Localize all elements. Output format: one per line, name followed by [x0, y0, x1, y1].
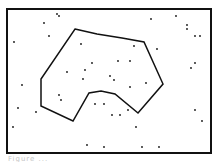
scatter-dot — [35, 111, 37, 113]
scatter-dot — [103, 103, 105, 105]
scatter-dot — [111, 114, 113, 116]
scatter-dot — [17, 107, 19, 109]
polygon-outline — [41, 29, 163, 121]
scatter-dot — [48, 35, 50, 37]
scatter-dot — [190, 67, 192, 69]
scatter-dot — [80, 43, 82, 45]
scatter-dot — [84, 69, 86, 71]
scatter-dot — [135, 126, 137, 128]
scatter-dot — [103, 146, 105, 148]
scatter-dot — [194, 109, 196, 111]
scatter-dot — [13, 41, 15, 43]
scatter-dot — [91, 62, 93, 64]
scatter-dot — [186, 24, 188, 26]
scatter-dot — [119, 114, 121, 116]
scatter-dot — [199, 35, 201, 37]
scatter-dot — [129, 86, 131, 88]
scatter-dot — [145, 82, 147, 84]
scatter-dot — [66, 71, 68, 73]
scatter-dot — [194, 35, 196, 37]
scatter-dot — [109, 75, 111, 77]
scatter-dot — [86, 144, 88, 146]
scatter-dot — [43, 22, 45, 24]
scatter-dot — [94, 103, 96, 105]
scatter-dot — [175, 15, 177, 17]
scatter-dot — [129, 60, 131, 62]
scatter-dot — [58, 94, 60, 96]
scatter-dot — [127, 109, 129, 111]
scatter-dot — [58, 15, 60, 17]
scatter-dot — [82, 78, 84, 80]
figure-caption: Figure ... — [8, 155, 48, 162]
scatter-dot — [133, 45, 135, 47]
scatter-dot — [158, 146, 160, 148]
polygon-points-diagram — [0, 0, 216, 162]
figure-frame — [7, 9, 211, 153]
scatter-dot — [194, 62, 196, 64]
scatter-dot — [56, 13, 58, 15]
scatter-dot — [21, 84, 23, 86]
scatter-dot — [113, 79, 115, 81]
scatter-dot — [150, 18, 152, 20]
scatter-dot — [60, 99, 62, 101]
scatter-dot — [156, 48, 158, 50]
scatter-dot — [12, 126, 14, 128]
scatter-dot — [186, 28, 188, 30]
scatter-dot — [117, 60, 119, 62]
scatter-dot — [141, 146, 143, 148]
scatter-dot — [201, 120, 203, 122]
